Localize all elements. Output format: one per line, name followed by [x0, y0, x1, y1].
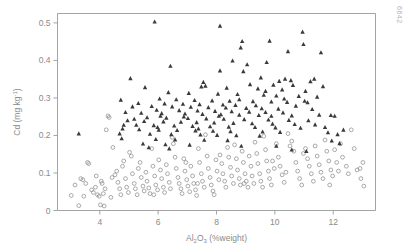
data-point-triangle	[186, 116, 190, 120]
data-point-triangle	[274, 93, 278, 97]
data-point-circle	[226, 146, 230, 150]
data-point-triangle	[221, 102, 225, 106]
data-point-circle	[352, 147, 356, 151]
data-point-circle	[328, 183, 332, 187]
data-point-triangle	[167, 146, 171, 150]
data-point-circle	[250, 174, 254, 178]
data-point-circle	[271, 159, 275, 163]
data-point-triangle	[168, 64, 172, 68]
data-point-circle	[103, 187, 107, 191]
data-point-triangle	[240, 39, 244, 43]
data-point-circle	[69, 194, 73, 198]
data-point-triangle	[304, 149, 308, 153]
x-tick-label: 12	[328, 217, 338, 227]
data-point-triangle	[213, 109, 217, 113]
data-point-circle	[169, 187, 173, 191]
data-point-circle	[264, 148, 268, 152]
data-point-circle	[269, 183, 273, 187]
data-point-triangle	[293, 122, 297, 126]
data-point-circle	[206, 167, 210, 171]
data-point-circle	[236, 168, 240, 172]
data-point-triangle	[150, 104, 154, 108]
data-point-triangle	[195, 108, 199, 112]
data-point-circle	[296, 169, 300, 173]
data-point-circle	[362, 184, 366, 188]
data-point-circle	[145, 179, 149, 183]
data-point-triangle	[175, 128, 179, 132]
data-point-triangle	[157, 96, 161, 100]
data-point-triangle	[260, 129, 264, 133]
data-point-circle	[298, 177, 302, 181]
data-point-circle	[84, 182, 88, 186]
data-point-circle	[337, 169, 341, 173]
data-point-triangle	[132, 117, 136, 121]
data-point-circle	[98, 203, 102, 207]
data-point-circle	[167, 180, 171, 184]
data-point-circle	[177, 182, 181, 186]
data-point-triangle	[329, 113, 333, 117]
data-point-triangle	[335, 132, 339, 136]
data-point-circle	[258, 172, 262, 176]
data-point-triangle	[300, 30, 304, 34]
data-point-triangle	[310, 107, 314, 111]
data-point-circle	[208, 176, 212, 180]
data-point-triangle	[278, 130, 282, 134]
data-point-circle	[192, 182, 196, 186]
data-point-circle	[152, 193, 156, 197]
data-point-circle	[224, 185, 228, 189]
data-point-circle	[361, 161, 365, 165]
data-point-circle	[135, 193, 139, 197]
data-point-circle	[286, 132, 290, 136]
data-point-circle	[212, 193, 216, 197]
data-point-triangle	[152, 19, 156, 23]
data-point-triangle	[136, 101, 140, 105]
data-point-triangle	[122, 123, 126, 127]
data-point-circle	[144, 170, 148, 174]
data-point-circle	[199, 172, 203, 176]
data-point-triangle	[148, 132, 152, 136]
data-point-triangle	[239, 45, 243, 49]
data-point-triangle	[183, 111, 187, 115]
data-point-triangle	[128, 76, 132, 80]
data-point-circle	[229, 165, 233, 169]
data-point-circle	[194, 188, 198, 192]
data-point-triangle	[218, 24, 222, 28]
data-point-triangle	[281, 110, 285, 114]
data-point-triangle	[169, 132, 173, 136]
data-point-triangle	[117, 131, 121, 135]
data-point-triangle	[257, 134, 261, 138]
data-point-circle	[139, 176, 143, 180]
data-point-triangle	[203, 84, 207, 88]
data-point-triangle	[312, 76, 316, 80]
data-point-triangle	[143, 85, 147, 89]
data-point-triangle	[161, 119, 165, 123]
data-point-circle	[184, 161, 188, 165]
data-point-triangle	[247, 110, 251, 114]
scatter-figure: 00.10.20.30.40.54681012Al2O3 (%weight)Cd…	[0, 0, 405, 248]
data-point-triangle	[177, 108, 181, 112]
data-point-triangle	[125, 118, 129, 122]
y-tick-label: 0.1	[39, 168, 51, 178]
data-point-circle	[237, 177, 241, 181]
data-point-triangle	[297, 94, 301, 98]
data-point-triangle	[229, 109, 233, 113]
data-point-triangle	[241, 69, 245, 73]
data-point-circle	[259, 179, 263, 183]
data-point-triangle	[162, 101, 166, 105]
data-point-triangle	[173, 137, 177, 141]
data-point-circle	[183, 169, 187, 173]
data-point-triangle	[179, 120, 183, 124]
data-point-circle	[311, 179, 315, 183]
data-point-triangle	[294, 104, 298, 108]
data-point-circle	[118, 187, 122, 191]
data-point-triangle	[152, 123, 156, 127]
data-point-circle	[218, 153, 222, 157]
data-point-triangle	[253, 125, 257, 129]
data-point-triangle	[172, 123, 176, 127]
data-point-triangle	[225, 85, 229, 89]
data-point-circle	[196, 182, 200, 186]
data-point-triangle	[254, 103, 258, 107]
data-point-triangle	[139, 111, 143, 115]
series-upper-group	[77, 19, 346, 153]
data-point-circle	[239, 183, 243, 187]
